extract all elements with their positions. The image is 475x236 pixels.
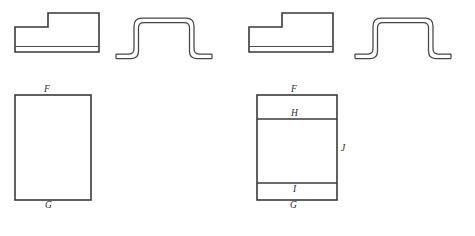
stepped-block-right (249, 13, 333, 52)
stepped-block-left (15, 13, 99, 52)
hat-profile-left (116, 18, 212, 59)
label-right-h: H (291, 109, 298, 119)
label-right-g: G (290, 201, 297, 211)
drawing-vector-layer (0, 0, 475, 236)
label-right-i: I (293, 185, 296, 195)
label-right-j: J (341, 144, 345, 154)
drawing-canvas: F G F H J I G (0, 0, 475, 236)
hat-profile-right (355, 18, 451, 59)
label-right-f: F (291, 85, 297, 95)
label-left-g: G (45, 201, 52, 211)
plan-rectangle-left (15, 95, 91, 200)
label-left-f: F (44, 85, 50, 95)
